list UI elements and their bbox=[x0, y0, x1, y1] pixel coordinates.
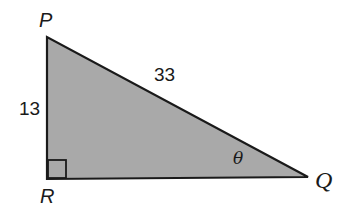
triangle-diagram: P R Q 33 13 θ bbox=[0, 0, 351, 218]
vertex-label-q: Q bbox=[315, 168, 332, 192]
angle-theta-label: θ bbox=[233, 150, 243, 167]
triangle-pqr bbox=[47, 37, 308, 179]
vertex-label-p: P bbox=[39, 10, 52, 30]
hypotenuse-length-label: 33 bbox=[154, 65, 175, 84]
vertex-label-r: R bbox=[40, 186, 54, 206]
leg-pr-length-label: 13 bbox=[19, 99, 40, 118]
